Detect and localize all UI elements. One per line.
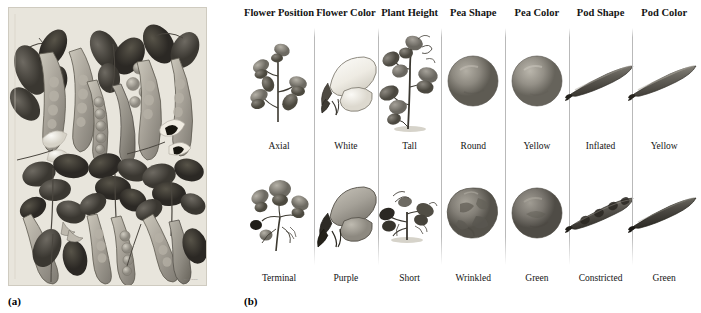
cell-label-yellow-pod: Yellow <box>632 136 696 158</box>
green-pea-icon <box>508 184 566 242</box>
cell-wrinkled-pea <box>441 158 505 268</box>
cell-yellow-pea <box>505 26 569 136</box>
column-header-flower-color: Flower Color <box>314 0 378 26</box>
column-header-pod-color: Pod Color <box>632 0 696 26</box>
axial-flower-icon <box>248 38 310 124</box>
cell-label-wrinkled: Wrinkled <box>441 268 505 290</box>
column-header-plant-height: Plant Height <box>378 0 442 26</box>
short-plant-icon <box>375 182 445 244</box>
purple-flower-icon <box>310 175 382 251</box>
plate-signature: del. et sculp. <box>184 278 198 281</box>
trait-column-pod-shape: Pod Shape Inflated <box>569 0 633 290</box>
tall-plant-icon <box>378 29 442 133</box>
cell-label-green-pod: Green <box>632 268 696 290</box>
cell-label-terminal: Terminal <box>244 268 314 290</box>
cell-round-pea <box>441 26 505 136</box>
trait-column-pea-color: Pea Color Yellow <box>505 0 569 290</box>
column-header-pod-shape: Pod Shape <box>569 0 633 26</box>
traits-grid: Flower Position <box>244 0 696 290</box>
terminal-flower-icon <box>246 173 312 253</box>
cell-label-green-pea: Green <box>505 268 569 290</box>
column-header-flower-position: Flower Position <box>244 0 314 26</box>
cell-label-axial: Axial <box>244 136 314 158</box>
cell-white-flower <box>314 26 378 136</box>
cell-constricted-pod <box>569 158 633 268</box>
cell-label-short: Short <box>378 268 442 290</box>
trait-column-pea-shape: Pea Shape Round <box>441 0 505 290</box>
cell-label-tall: Tall <box>378 136 442 158</box>
cell-label-inflated: Inflated <box>569 136 633 158</box>
green-pod-icon <box>626 192 701 234</box>
cell-purple-flower <box>314 158 378 268</box>
panel-b-traits: Flower Position <box>240 0 696 313</box>
cell-label-yellow-pea: Yellow <box>505 136 569 158</box>
cell-terminal <box>244 158 314 268</box>
trait-column-pod-color: Pod Color Yellow <box>632 0 696 290</box>
cell-tall-plant <box>378 26 442 136</box>
cell-label-white: White <box>314 136 378 158</box>
pea-plate-drawing <box>9 8 206 285</box>
column-header-pea-color: Pea Color <box>505 0 569 26</box>
cell-green-pea <box>505 158 569 268</box>
trait-column-flower-position: Flower Position <box>244 0 314 290</box>
cell-label-purple: Purple <box>314 268 378 290</box>
cell-short-plant <box>378 158 442 268</box>
white-flower-icon <box>310 43 382 119</box>
round-pea-icon <box>444 52 502 110</box>
cell-axial <box>244 26 314 136</box>
column-header-pea-shape: Pea Shape <box>441 0 505 26</box>
trait-column-flower-color: Flower Color <box>314 0 378 290</box>
cell-label-constricted: Constricted <box>569 268 633 290</box>
wrinkled-pea-icon <box>444 184 502 242</box>
cell-green-pod <box>632 158 696 268</box>
panel-a-illustration: BARON BOTANY TAB. XXIII pl. 23 <box>0 0 240 313</box>
panel-b-tag: (b) <box>244 295 257 307</box>
cell-label-round: Round <box>441 136 505 158</box>
yellow-pea-icon <box>508 52 566 110</box>
cell-inflated-pod <box>569 26 633 136</box>
yellow-pod-icon <box>626 60 701 102</box>
cell-yellow-pod <box>632 26 696 136</box>
panel-a-tag: (a) <box>8 295 21 307</box>
trait-column-plant-height: Plant Height <box>378 0 442 290</box>
botanical-plate: BARON BOTANY TAB. XXIII pl. 23 <box>8 7 207 286</box>
